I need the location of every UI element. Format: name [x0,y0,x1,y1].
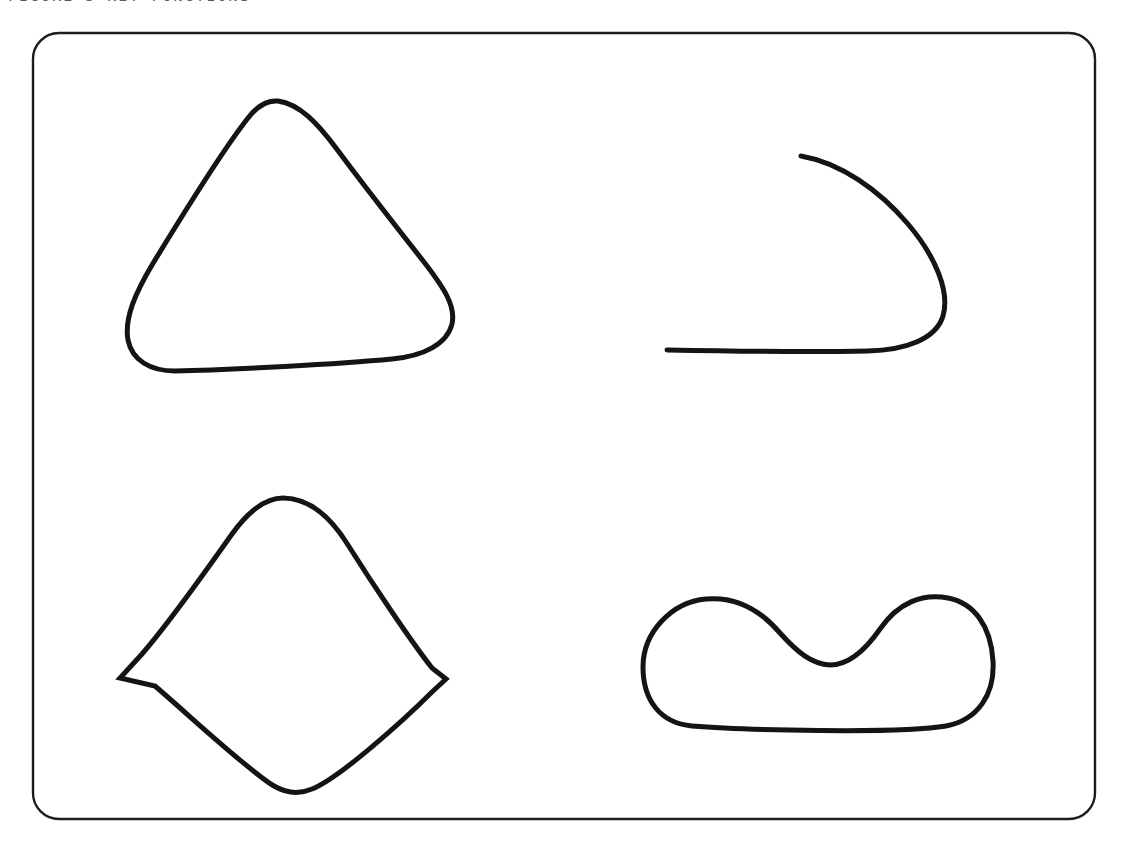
kidney-bean-curve [643,597,993,731]
figure-frame [0,0,1121,844]
rounded-kite-curve [120,498,446,793]
figure-canvas [0,0,1121,844]
rounded-triangle-curve [127,101,453,371]
rounded-rectangle-border [33,33,1095,819]
open-hook-curve [667,156,945,351]
